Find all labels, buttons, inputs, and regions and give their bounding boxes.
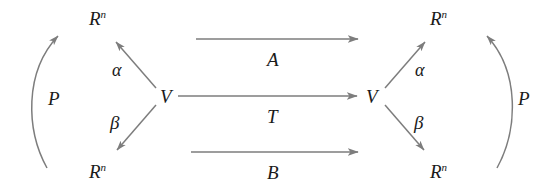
object-right-top-rn-exponent: n (442, 8, 448, 20)
label-morphism-left-alpha: α (112, 61, 121, 79)
object-left-bottom-rn-base: R (89, 161, 101, 182)
object-right-top-rn-base: R (430, 8, 442, 29)
label-morphism-right-beta: β (414, 113, 423, 132)
label-morphism-right-alpha: α (415, 61, 424, 79)
label-morphism-a: A (267, 50, 279, 69)
label-morphism-left-beta: β (110, 113, 119, 132)
object-right-bottom-rn: Rn (430, 162, 447, 181)
object-right-top-rn: Rn (430, 9, 447, 28)
arrow-right-p-curve (487, 36, 512, 168)
object-left-top-rn: Rn (89, 9, 106, 28)
object-right-bottom-rn-exponent: n (442, 161, 448, 173)
object-left-bottom-rn-exponent: n (101, 161, 107, 173)
commutative-diagram: Rn Rn V Rn Rn V A T B α β α β P P (0, 0, 551, 192)
object-left-bottom-rn: Rn (89, 162, 106, 181)
label-morphism-left-p: P (48, 89, 60, 108)
arrow-left-alpha (116, 42, 156, 88)
object-left-top-rn-base: R (89, 8, 101, 29)
label-morphism-b: B (267, 163, 279, 182)
label-morphism-t: T (267, 107, 278, 126)
object-right-v: V (366, 87, 378, 106)
object-right-bottom-rn-base: R (430, 161, 442, 182)
label-morphism-right-p: P (518, 89, 530, 108)
object-left-v: V (160, 87, 172, 106)
arrow-left-beta (117, 105, 156, 150)
object-left-top-rn-exponent: n (101, 8, 107, 20)
